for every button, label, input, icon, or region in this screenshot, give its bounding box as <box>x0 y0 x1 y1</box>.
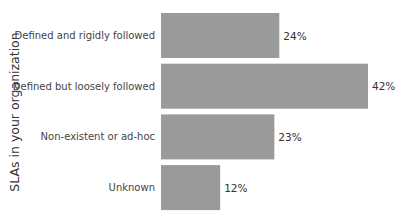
category-label-0: Defined and rigidly followed <box>15 30 155 41</box>
value-label-2: 23% <box>278 131 301 143</box>
bars-group: Defined and rigidly followed24%Defined b… <box>13 13 396 210</box>
value-label-0: 24% <box>283 30 306 42</box>
bar-1 <box>161 64 368 109</box>
bar-2 <box>161 114 274 159</box>
bar-3 <box>161 165 220 210</box>
value-label-1: 42% <box>372 80 395 92</box>
category-label-3: Unknown <box>109 182 155 193</box>
value-label-3: 12% <box>224 182 247 194</box>
category-label-1: Defined but loosely followed <box>13 81 155 92</box>
category-label-2: Non-existent or ad-hoc <box>41 131 155 142</box>
y-axis-label: SLAs in your organization <box>7 32 22 191</box>
bar-0 <box>161 13 279 58</box>
bar-chart: SLAs in your organization Defined and ri… <box>0 0 403 222</box>
